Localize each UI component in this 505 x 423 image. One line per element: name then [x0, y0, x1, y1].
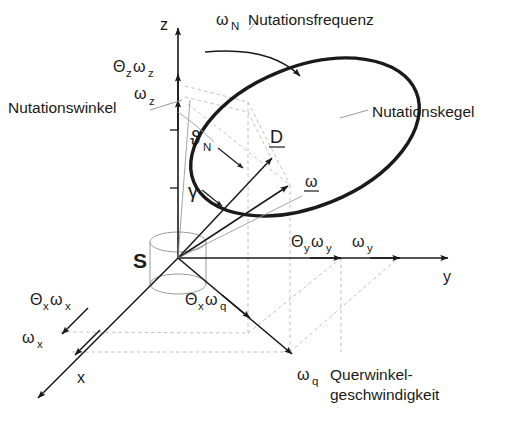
- axis-label-z: z: [160, 16, 168, 33]
- omega-x2-base: ω: [22, 329, 35, 346]
- label-y-theta-omega: Θ y ω y: [291, 233, 332, 254]
- omega-z2-sub: z: [149, 95, 155, 107]
- label-z-omega: ω z: [134, 85, 155, 107]
- nutation-diagram: z y x S Θ z ω z ω z Θ y ω y ω y: [0, 0, 505, 423]
- theta-x-sub: x: [43, 300, 49, 312]
- label-vector-drall: D: [269, 127, 285, 147]
- guide-top-d: [248, 102, 290, 185]
- theta-y-sub: y: [304, 242, 310, 254]
- drall-symbol: D: [270, 127, 283, 147]
- axis-x: [38, 258, 178, 398]
- pointer-nutationswinkel: [218, 148, 243, 168]
- helper-cone-left: [178, 100, 190, 258]
- label-querwinkelgeschwindigkeit: Querwinkel- geschwindigkeit: [330, 366, 440, 403]
- callout-leaders: [150, 19, 368, 118]
- theta-x-base: Θ: [30, 291, 42, 308]
- theta-q-base: Θ: [185, 291, 197, 308]
- guide-floor-right: [248, 258, 341, 333]
- omega-z-sub: z: [148, 67, 154, 79]
- label-y-omega: ω y: [352, 233, 373, 254]
- label-vector-omega: ω: [304, 173, 319, 191]
- label-x-omega: ω x: [22, 329, 43, 350]
- label-angle-gamma: γ: [188, 180, 198, 202]
- omega-q2-base: ω: [297, 366, 310, 383]
- origin-label-s: S: [133, 249, 147, 272]
- omega-y-base: ω: [311, 233, 324, 250]
- state-vectors: [178, 158, 288, 258]
- omega-symbol: ω: [305, 173, 318, 190]
- omega-x2-sub: x: [37, 338, 43, 350]
- omega-y-sub: y: [326, 242, 332, 254]
- guide-floor-right2: [290, 258, 398, 352]
- omega-q-sub: q: [220, 300, 226, 312]
- omega-y2-base: ω: [352, 233, 365, 250]
- omega-q2-sub: q: [312, 375, 318, 387]
- nutationsfrequenz-arrow: [205, 51, 300, 76]
- label-q-omega: ω q: [297, 366, 318, 387]
- component-arrowheads: [62, 74, 400, 355]
- projection-guides: [60, 86, 398, 352]
- leader-nutationskegel: [340, 110, 368, 118]
- querwinkel-line1: Querwinkel-: [330, 366, 413, 383]
- label-nutationskegel-text: Nutationskegel: [372, 103, 475, 120]
- omega-y2-sub: y: [367, 242, 373, 254]
- omega-n-sub: N: [231, 20, 239, 32]
- tick-x-omega: [75, 330, 100, 355]
- helper-origin-to-cone: [178, 196, 302, 258]
- omega-z2-base: ω: [134, 85, 147, 102]
- querwinkel-line2: geschwindigkeit: [330, 386, 440, 403]
- theta-z-sub: z: [126, 67, 132, 79]
- omega-x-sub: x: [65, 300, 71, 312]
- label-x-theta-omega: Θ x ω x: [30, 291, 71, 312]
- omega-z-base: ω: [133, 58, 146, 75]
- omega-x-base: ω: [50, 291, 63, 308]
- axis-label-y: y: [443, 268, 451, 285]
- theta-n-sub: N: [203, 141, 211, 153]
- guide-floor-left: [60, 332, 248, 333]
- axis-label-x: x: [77, 369, 85, 386]
- omega-n-base: ω: [216, 11, 229, 28]
- theta-y-base: Θ: [291, 233, 303, 250]
- omega-q-base: ω: [205, 291, 218, 308]
- diagram-canvas: z y x S Θ z ω z ω z Θ y ω y ω y: [0, 0, 505, 423]
- label-z-theta-omega: Θ z ω z: [113, 58, 154, 79]
- label-nutationsfrequenz: ω N Nutationsfrequenz: [216, 11, 374, 32]
- nutationsfrequenz-text: Nutationsfrequenz: [248, 11, 374, 28]
- theta-n-symbol: ϑ: [190, 127, 201, 149]
- theta-z-base: Θ: [113, 58, 125, 75]
- guide-top-e: [248, 112, 272, 160]
- label-nutationswinkel-text: Nutationswinkel: [8, 99, 117, 116]
- theta-q-sub: x: [198, 300, 204, 312]
